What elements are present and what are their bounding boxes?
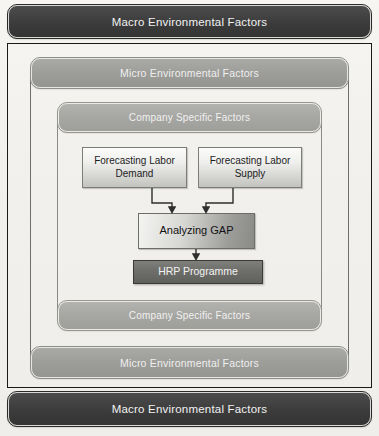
forecast-supply-line2: Supply bbox=[235, 168, 266, 179]
analyzing-gap-label: Analyzing GAP bbox=[160, 224, 234, 238]
node-forecasting-labor-supply: Forecasting Labor Supply bbox=[198, 147, 302, 188]
banner-macro-bottom: Macro Environmental Factors bbox=[8, 392, 371, 426]
node-hrp-programme: HRP Programme bbox=[133, 260, 263, 284]
forecast-demand-line2: Demand bbox=[116, 168, 154, 179]
node-analyzing-gap: Analyzing GAP bbox=[138, 213, 255, 249]
banner-micro-top: Micro Environmental Factors bbox=[31, 58, 348, 88]
hrp-programme-label: HRP Programme bbox=[158, 265, 238, 278]
banner-micro-bottom: Micro Environmental Factors bbox=[31, 347, 348, 378]
banner-company-bottom-label: Company Specific Factors bbox=[129, 310, 251, 321]
banner-micro-bottom-label: Micro Environmental Factors bbox=[120, 357, 259, 369]
banner-macro-top: Macro Environmental Factors bbox=[8, 5, 371, 38]
banner-company-top: Company Specific Factors bbox=[58, 103, 321, 132]
diagram-canvas: Macro Environmental Factors Micro Enviro… bbox=[0, 0, 379, 436]
forecast-demand-line1: Forecasting Labor bbox=[94, 155, 175, 166]
banner-macro-bottom-label: Macro Environmental Factors bbox=[112, 403, 268, 415]
banner-company-bottom: Company Specific Factors bbox=[58, 301, 321, 330]
node-forecasting-labor-demand: Forecasting Labor Demand bbox=[82, 147, 187, 188]
forecast-supply-line1: Forecasting Labor bbox=[210, 155, 291, 166]
banner-company-top-label: Company Specific Factors bbox=[129, 112, 251, 123]
banner-micro-top-label: Micro Environmental Factors bbox=[120, 67, 259, 79]
banner-macro-top-label: Macro Environmental Factors bbox=[112, 16, 268, 28]
